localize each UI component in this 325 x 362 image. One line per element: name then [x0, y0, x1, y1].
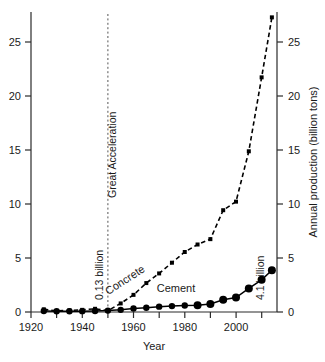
concrete-point	[132, 293, 136, 297]
cement-point	[182, 302, 188, 308]
chart-container: 0 5 10 15 20 25 0 5 10 15 20 25	[0, 0, 325, 362]
x-axis-title: Year	[143, 340, 166, 352]
cement-point	[41, 308, 47, 314]
left-tick-label-15: 15	[9, 144, 21, 156]
concrete-point	[221, 208, 225, 212]
cement-point	[194, 301, 202, 309]
right-tick-label-20: 20	[288, 90, 300, 102]
left-tick-label-20: 20	[9, 90, 21, 102]
cement-point	[206, 300, 214, 308]
right-tick-label-0: 0	[288, 306, 294, 318]
cement-point	[258, 276, 266, 284]
x-tick-label-1940: 1940	[70, 321, 94, 333]
concrete-point	[183, 250, 187, 254]
concrete-point	[157, 271, 161, 275]
concrete-point	[196, 243, 200, 247]
cement-point	[92, 308, 98, 314]
right-tick-label-15: 15	[288, 144, 300, 156]
cement-point	[169, 303, 175, 309]
y-axis-title-right: Annual production (billion tons)	[307, 86, 319, 237]
start-value-label: 0.13 billion	[93, 250, 105, 300]
cement-point	[156, 303, 162, 309]
cement-point	[53, 308, 59, 314]
x-tick-label-1980: 1980	[173, 321, 197, 333]
concrete-point	[144, 281, 148, 285]
right-tick-label-25: 25	[288, 36, 300, 48]
concrete-point	[234, 200, 238, 204]
cement-point	[232, 294, 240, 302]
great-acceleration-label: Great Acceleration	[106, 111, 118, 198]
x-tick-label-2000: 2000	[224, 321, 248, 333]
cement-point	[219, 296, 227, 304]
cement-point	[79, 308, 85, 314]
concrete-point	[119, 301, 123, 305]
cement-point	[117, 307, 123, 313]
left-tick-label-25: 25	[9, 36, 21, 48]
right-tick-label-10: 10	[288, 198, 300, 210]
right-tick-label-5: 5	[288, 252, 294, 264]
left-tick-label-5: 5	[15, 252, 21, 264]
concrete-point	[270, 15, 274, 19]
cement-label: Cement	[157, 282, 196, 294]
concrete-point	[260, 75, 264, 79]
production-line-chart: 0 5 10 15 20 25 0 5 10 15 20 25	[0, 0, 325, 362]
concrete-point	[170, 261, 174, 265]
left-tick-label-10: 10	[9, 198, 21, 210]
cement-point	[130, 305, 136, 311]
cement-point	[245, 284, 253, 292]
x-tick-label-1920: 1920	[19, 321, 43, 333]
cement-point	[66, 308, 72, 314]
concrete-point	[208, 237, 212, 241]
left-tick-label-0: 0	[15, 306, 21, 318]
x-tick-label-1960: 1960	[121, 321, 145, 333]
cement-point	[143, 305, 149, 311]
concrete-point	[247, 149, 251, 153]
cement-point	[105, 307, 111, 313]
cement-point	[268, 266, 276, 274]
chart-background	[0, 0, 325, 362]
